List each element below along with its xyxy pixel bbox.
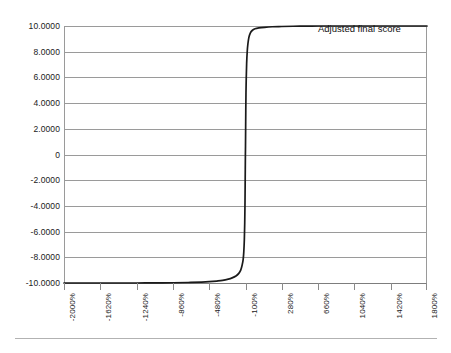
x-tick-mark [391, 283, 392, 290]
x-tick-label: -860% [177, 292, 186, 316]
x-tick-label: -1620% [104, 292, 113, 320]
x-tick-label: 660% [322, 292, 331, 313]
x-axis: -2000%-1620%-1240%-860%-480%-100%280%660… [64, 292, 427, 340]
series-line-adjusted-final-score [64, 26, 427, 283]
x-tick-label: 1040% [358, 292, 367, 317]
x-tick-mark [209, 283, 210, 290]
y-tick-label: -6.0000 [2, 227, 60, 236]
x-tick-mark [100, 283, 101, 290]
x-tick-mark [173, 283, 174, 290]
x-tick-mark [282, 283, 283, 290]
y-tick-label: 10.0000 [2, 22, 60, 31]
x-tick-label: 280% [286, 292, 295, 313]
y-tick-label: -8.0000 [2, 253, 60, 262]
x-tick-label: -2000% [68, 292, 77, 320]
y-tick-label: -10.0000 [2, 279, 60, 288]
y-tick-label: 4.0000 [2, 99, 60, 108]
y-tick-label: 8.0000 [2, 47, 60, 56]
y-tick-label: -4.0000 [2, 201, 60, 210]
x-tick-mark [354, 283, 355, 290]
footer-divider [15, 338, 437, 339]
series-annotation-label: Adjusted final score [318, 23, 401, 35]
y-tick-label: -2.0000 [2, 176, 60, 185]
x-tick-label: 1800% [430, 292, 439, 317]
chart-figure: 10.00008.00006.00004.00002.00000-2.0000-… [0, 0, 451, 353]
x-tick-mark [318, 283, 319, 290]
x-tick-label: -480% [213, 292, 222, 316]
x-tick-mark [64, 283, 65, 290]
x-tick-label: -100% [250, 292, 259, 316]
x-tick-label: -1240% [141, 292, 150, 320]
x-tick-mark [246, 283, 247, 290]
y-axis: 10.00008.00006.00004.00002.00000-2.0000-… [0, 0, 60, 353]
x-tick-mark [426, 283, 427, 290]
y-tick-label: 2.0000 [2, 124, 60, 133]
x-axis-ticks [64, 283, 427, 291]
x-tick-mark [137, 283, 138, 290]
x-tick-label: 1420% [395, 292, 404, 317]
y-tick-label: 6.0000 [2, 73, 60, 82]
y-tick-label: 0 [2, 150, 60, 159]
